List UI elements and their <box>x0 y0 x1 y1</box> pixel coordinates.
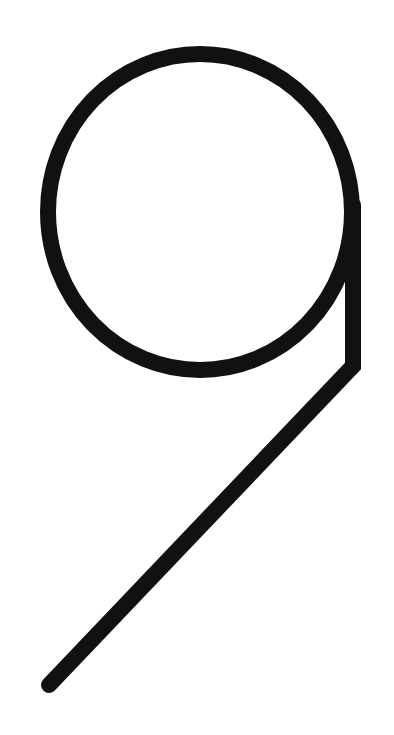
nine-glyph-icon <box>0 0 394 735</box>
glyph-stem-and-tail <box>49 205 353 685</box>
glyph-bowl <box>48 54 352 370</box>
